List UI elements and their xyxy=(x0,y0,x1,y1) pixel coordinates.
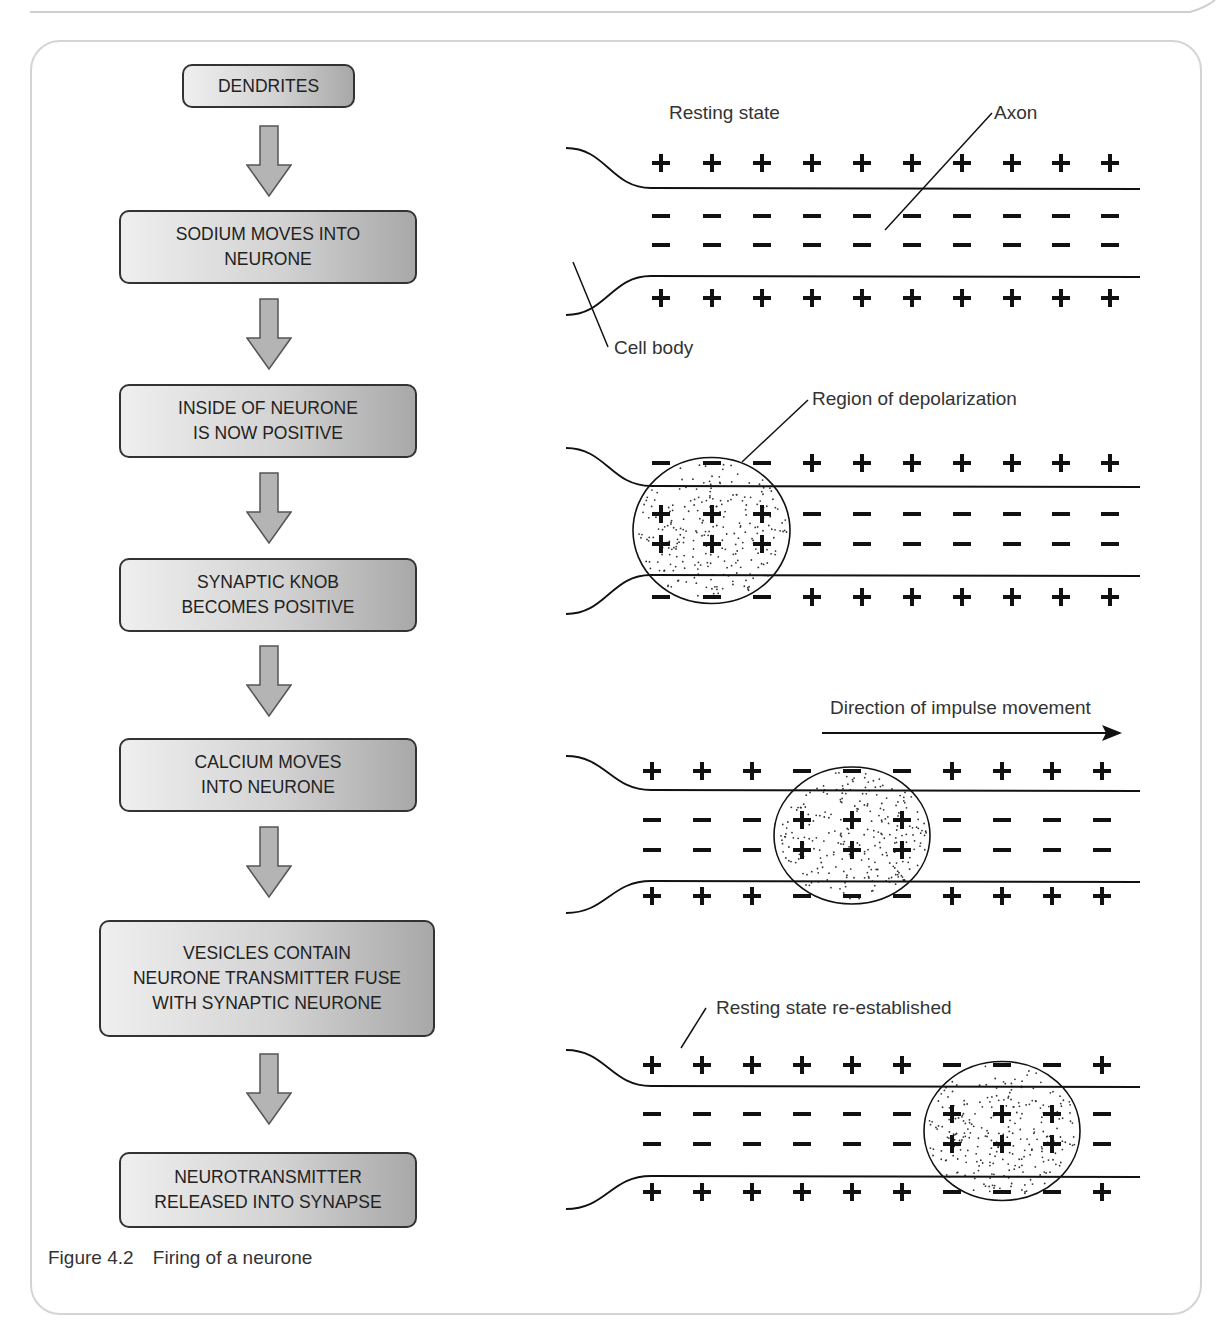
plus-sign-icon xyxy=(993,762,1011,780)
plus-sign-icon xyxy=(903,289,921,307)
plus-sign-icon xyxy=(1043,762,1061,780)
plus-sign-icon xyxy=(1093,1056,1111,1074)
plus-sign-icon xyxy=(853,154,871,172)
plus-sign-icon xyxy=(693,887,711,905)
axon-membrane-top xyxy=(566,148,1140,189)
plus-sign-icon xyxy=(753,154,771,172)
plus-sign-icon xyxy=(953,289,971,307)
plus-sign-icon xyxy=(793,1183,811,1201)
plus-sign-icon xyxy=(903,588,921,606)
axon-membrane-top xyxy=(566,448,1140,487)
plus-sign-icon xyxy=(793,1056,811,1074)
plus-sign-icon xyxy=(703,289,721,307)
plus-sign-icon xyxy=(853,454,871,472)
plus-sign-icon xyxy=(652,154,670,172)
figure-number: Figure 4.2 xyxy=(48,1247,134,1268)
plus-sign-icon xyxy=(1043,887,1061,905)
plus-sign-icon xyxy=(1101,454,1119,472)
plus-sign-icon xyxy=(753,289,771,307)
plus-sign-icon xyxy=(1052,454,1070,472)
depolarization-region xyxy=(774,767,930,904)
plus-sign-icon xyxy=(903,454,921,472)
figure-caption: Figure 4.2 Firing of a neurone xyxy=(48,1247,312,1269)
plus-sign-icon xyxy=(853,289,871,307)
label-resting-reestablished: Resting state re-established xyxy=(716,997,952,1019)
label-region-of-depolarization: Region of depolarization xyxy=(812,388,1017,410)
plus-sign-icon xyxy=(893,1056,911,1074)
plus-sign-icon xyxy=(1052,289,1070,307)
plus-sign-icon xyxy=(1003,289,1021,307)
plus-sign-icon xyxy=(1101,289,1119,307)
axon-membrane-bottom xyxy=(566,575,1140,614)
depolarization-region xyxy=(633,458,790,604)
plus-sign-icon xyxy=(853,588,871,606)
plus-sign-icon xyxy=(1003,154,1021,172)
plus-sign-icon xyxy=(703,154,721,172)
plus-sign-icon xyxy=(743,1056,761,1074)
plus-sign-icon xyxy=(1003,454,1021,472)
plus-sign-icon xyxy=(743,762,761,780)
plus-sign-icon xyxy=(1101,154,1119,172)
plus-sign-icon xyxy=(893,1183,911,1201)
plus-sign-icon xyxy=(693,1056,711,1074)
plus-sign-icon xyxy=(843,1056,861,1074)
plus-sign-icon xyxy=(803,289,821,307)
axon-membrane-bottom xyxy=(566,276,1140,315)
cell-body-leader-line xyxy=(573,262,608,347)
plus-sign-icon xyxy=(743,887,761,905)
plus-sign-icon xyxy=(953,588,971,606)
plus-sign-icon xyxy=(803,454,821,472)
plus-sign-icon xyxy=(903,154,921,172)
axon-leader-line xyxy=(885,113,992,230)
plus-sign-icon xyxy=(643,1183,661,1201)
label-resting-state: Resting state xyxy=(669,102,780,124)
plus-sign-icon xyxy=(843,1183,861,1201)
plus-sign-icon xyxy=(1093,887,1111,905)
plus-sign-icon xyxy=(652,289,670,307)
plus-sign-icon xyxy=(643,1056,661,1074)
label-axon: Axon xyxy=(994,102,1037,124)
plus-sign-icon xyxy=(743,1183,761,1201)
plus-sign-icon xyxy=(1093,1183,1111,1201)
figure-title: Firing of a neurone xyxy=(153,1247,313,1268)
plus-sign-icon xyxy=(693,1183,711,1201)
plus-sign-icon xyxy=(953,454,971,472)
plus-sign-icon xyxy=(803,154,821,172)
plus-sign-icon xyxy=(1101,588,1119,606)
plus-sign-icon xyxy=(943,887,961,905)
label-direction-of-impulse: Direction of impulse movement xyxy=(830,697,1091,719)
plus-sign-icon xyxy=(1003,588,1021,606)
depolarization-leader-line xyxy=(742,400,808,462)
axon-diagrams xyxy=(0,0,1222,1323)
plus-sign-icon xyxy=(943,762,961,780)
plus-sign-icon xyxy=(803,588,821,606)
plus-sign-icon xyxy=(993,887,1011,905)
plus-sign-icon xyxy=(1052,588,1070,606)
plus-sign-icon xyxy=(643,762,661,780)
reestablished-leader-line xyxy=(681,1008,706,1048)
plus-sign-icon xyxy=(1052,154,1070,172)
depolarization-region xyxy=(924,1062,1080,1201)
plus-sign-icon xyxy=(953,154,971,172)
plus-sign-icon xyxy=(693,762,711,780)
label-cell-body: Cell body xyxy=(614,337,693,359)
plus-sign-icon xyxy=(643,887,661,905)
plus-sign-icon xyxy=(1093,762,1111,780)
